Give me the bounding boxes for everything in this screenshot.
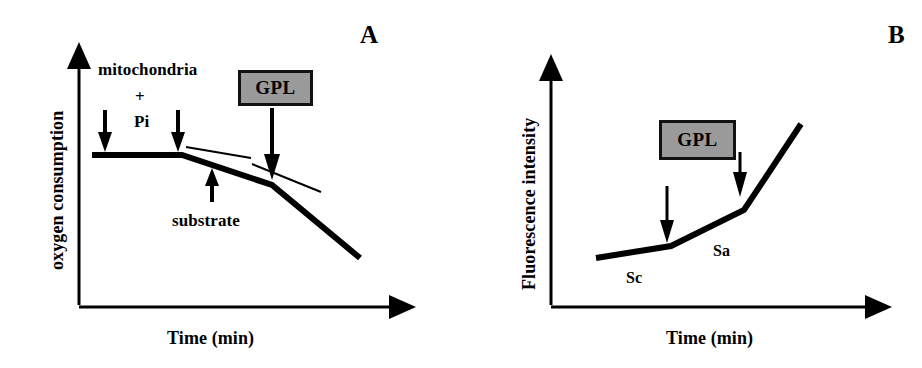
panel-letter-b: B <box>888 22 905 47</box>
annotation-substrate: substrate <box>172 212 240 229</box>
annotation-sc: Sc <box>626 270 642 286</box>
gpl-box-a: GPL <box>238 70 313 106</box>
panel-letter-a: A <box>360 22 378 47</box>
arrow-substrate-point-icon <box>205 168 219 202</box>
y-axis-label-a: oxygen consumption <box>48 111 66 270</box>
panel-a: A oxygen consumption Time (min) mitochon… <box>0 0 461 368</box>
annotation-pi: Pi <box>134 113 149 130</box>
annotation-plus: + <box>135 88 145 105</box>
x-axis-label-a: Time (min) <box>167 329 254 347</box>
annotation-sa: Sa <box>713 243 730 259</box>
arrow-mitochondria-icon <box>98 110 112 152</box>
tangent-line-post-substrate <box>252 164 321 192</box>
gpl-box-a-label: GPL <box>255 77 295 99</box>
arrow-substrate-addition-icon <box>171 110 185 152</box>
panel-a-plot <box>0 0 461 368</box>
oxygen-consumption-trace <box>92 155 360 258</box>
gpl-box-b: GPL <box>659 120 736 160</box>
figure-root: A oxygen consumption Time (min) mitochon… <box>0 0 922 368</box>
tangent-line-state3 <box>186 147 251 158</box>
y-axis-label-b: Fluorescence intensity <box>520 118 538 290</box>
arrow-sc-icon <box>660 186 674 243</box>
gpl-box-b-label: GPL <box>677 129 717 151</box>
annotation-mitochondria: mitochondria <box>98 61 197 78</box>
x-axis-label-b: Time (min) <box>666 329 753 347</box>
panel-b: B Fluorescence intensity Time (min) Sc S… <box>461 0 922 368</box>
